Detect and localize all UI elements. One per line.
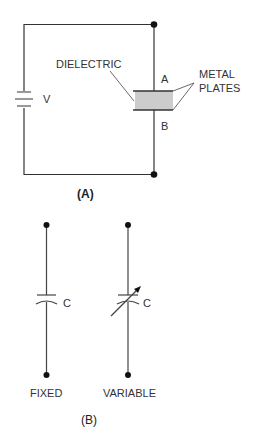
variable-caption: VARIABLE bbox=[103, 388, 156, 399]
variable-capacitor-symbol bbox=[111, 225, 139, 375]
dielectric-label: DIELECTRIC bbox=[56, 59, 121, 70]
voltage-label: V bbox=[43, 94, 50, 105]
fixed-capacitor-label: C bbox=[63, 298, 71, 309]
variable-capacitor-label: C bbox=[143, 298, 151, 309]
terminal-dot bbox=[125, 222, 131, 228]
battery-icon bbox=[15, 92, 33, 106]
figure-a-caption: (A) bbox=[77, 188, 94, 200]
terminal-dot bbox=[44, 222, 50, 228]
metal-plates-label-line1: METAL bbox=[199, 69, 235, 80]
fixed-caption: FIXED bbox=[30, 388, 62, 399]
plate-b-label: B bbox=[161, 121, 168, 132]
junction-dot bbox=[151, 21, 158, 28]
junction-dot bbox=[151, 171, 158, 178]
metal-plates-label-line2: PLATES bbox=[199, 83, 240, 94]
fixed-capacitor-symbol bbox=[36, 225, 57, 375]
dielectric-block bbox=[135, 91, 173, 110]
plate-a-label: A bbox=[161, 74, 168, 85]
capacitor-diagram bbox=[0, 0, 256, 433]
terminal-dot bbox=[125, 372, 131, 378]
terminal-dot bbox=[44, 372, 50, 378]
figure-b-caption: (B) bbox=[81, 414, 97, 426]
